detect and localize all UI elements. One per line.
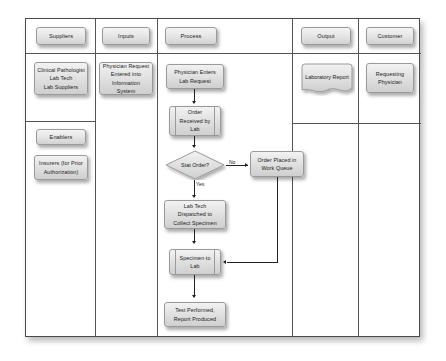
process-step1-line1: Physician Enters	[174, 68, 216, 76]
column-divider-output-customer	[358, 19, 359, 336]
output-row-divider	[292, 123, 421, 124]
edge-label-yes: Yes	[196, 181, 204, 187]
inputs-request-line3: Information System	[102, 79, 150, 96]
process-step2-line3: Lab	[190, 125, 199, 133]
arrowhead-step3-to-step4	[192, 241, 196, 244]
process-step-specimen-to-lab: Specimen to Lab	[169, 249, 221, 275]
output-laboratory-report-node: Laboratory Report	[299, 63, 355, 96]
arrowhead-decision-to-work-queue	[245, 163, 248, 167]
column-header-process: Process	[165, 27, 217, 45]
work-queue-line1: Order Placed in	[258, 156, 297, 164]
process-step4-line1: Specimen to	[179, 254, 210, 262]
work-queue-line2: Work Queue	[261, 164, 292, 172]
column-header-process-label: Process	[181, 32, 202, 41]
enablers-header-node: Enablers	[36, 129, 86, 145]
inputs-request-node: Physician Request Entered into Informati…	[99, 62, 153, 95]
output-laboratory-report-label: Laboratory Report	[299, 74, 355, 80]
sipoc-frame: Suppliers Inputs Process Output Customer…	[25, 18, 420, 337]
header-row-divider-left	[26, 53, 292, 54]
enablers-insurers-node: Insurers (for Prior Authorization)	[34, 155, 88, 180]
connector-work-queue-to-specimen	[227, 262, 278, 263]
column-divider-process-output	[292, 19, 293, 336]
process-step2-line2: Received by	[180, 117, 211, 125]
header-row-divider-right	[292, 53, 421, 54]
column-header-inputs-label: Inputs	[118, 32, 134, 41]
suppliers-primary-node: Clinical Pathologist Lab Tech Lab Suppli…	[34, 62, 88, 95]
process-step1-line2: Lab Request	[179, 77, 211, 85]
column-header-output: Output	[301, 27, 351, 45]
customer-physician-line2: Physician	[378, 78, 402, 86]
suppliers-primary-line1: Clinical Pathologist	[37, 66, 85, 74]
column-divider-inputs-process	[157, 19, 158, 336]
arrowhead-decision-to-step3	[192, 195, 196, 198]
document-shape-icon	[299, 63, 355, 96]
enablers-header-label: Enablers	[50, 133, 73, 142]
process-step3-line2: Dispatched to	[178, 210, 212, 218]
column-header-suppliers: Suppliers	[36, 27, 86, 45]
suppliers-primary-line2: Lab Tech	[50, 74, 73, 82]
column-header-customer-label: Customer	[377, 32, 402, 41]
process-decision-label: Stat Order?	[164, 162, 226, 168]
process-step-order-received-by-lab: Order Received by Lab	[169, 106, 221, 136]
column-header-output-label: Output	[317, 32, 334, 41]
edge-label-no: No	[229, 159, 235, 165]
process-step-physician-enters-request: Physician Enters Lab Request	[166, 64, 224, 89]
process-node-order-placed-work-queue: Order Placed in Work Queue	[250, 151, 304, 177]
process-step-test-performed: Test Performed, Report Produced	[164, 302, 226, 327]
process-step5-line2: Report Produced	[174, 315, 216, 323]
process-step2-line1: Order	[188, 108, 202, 116]
enablers-insurers-line1: Insurers (for Prior	[39, 159, 83, 167]
arrowhead-work-queue-to-specimen	[223, 260, 226, 264]
column-header-customer: Customer	[366, 27, 414, 45]
inputs-request-line1: Physician Request	[103, 62, 149, 70]
connector-step4-to-step5	[194, 275, 195, 297]
process-step3-line3: Collect Specimen	[173, 219, 217, 227]
process-step4-line2: Lab	[190, 262, 199, 270]
column-divider-suppliers-inputs	[95, 19, 96, 336]
enablers-insurers-line2: Authorization)	[44, 168, 79, 176]
process-decision-stat-order: Stat Order?	[164, 150, 226, 180]
connector-work-queue-down	[277, 177, 278, 262]
process-step5-line1: Test Performed,	[175, 306, 215, 314]
process-step-lab-tech-dispatched: Lab Tech Dispatched to Collect Specimen	[164, 200, 226, 229]
arrowhead-step2-to-decision	[192, 145, 196, 148]
arrowhead-step1-to-step2	[192, 101, 196, 104]
diagram-canvas: Suppliers Inputs Process Output Customer…	[0, 0, 446, 361]
customer-requesting-physician-node: Requesting Physician	[366, 63, 414, 93]
suppliers-row-divider	[26, 121, 95, 122]
suppliers-primary-line3: Lab Suppliers	[44, 83, 78, 91]
column-header-suppliers-label: Suppliers	[49, 32, 73, 41]
column-header-inputs: Inputs	[102, 27, 150, 45]
arrowhead-step4-to-step5	[192, 295, 196, 298]
process-step3-line1: Lab Tech	[184, 202, 207, 210]
customer-physician-line1: Requesting	[376, 70, 404, 78]
inputs-request-line2: Entered into	[111, 70, 141, 78]
